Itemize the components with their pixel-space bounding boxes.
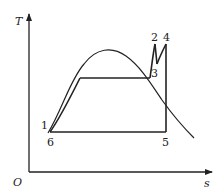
point-label-2: 2 — [151, 31, 158, 44]
cycle-reheat — [157, 44, 166, 64]
point-label-1: 1 — [41, 119, 48, 132]
saturation-dome — [48, 50, 194, 138]
cycle-hp-expansion — [155, 44, 157, 64]
cycle-heating-liquid — [50, 78, 80, 132]
ts-diagram: T s O 1 2 3 4 5 6 — [0, 0, 223, 193]
point-label-5: 5 — [162, 136, 169, 149]
point-label-3: 3 — [151, 67, 158, 80]
point-label-4: 4 — [163, 31, 170, 44]
y-axis-label: T — [15, 15, 24, 28]
point-label-6: 6 — [47, 136, 54, 149]
x-axis-label: s — [204, 177, 210, 190]
origin-label: O — [13, 176, 22, 189]
